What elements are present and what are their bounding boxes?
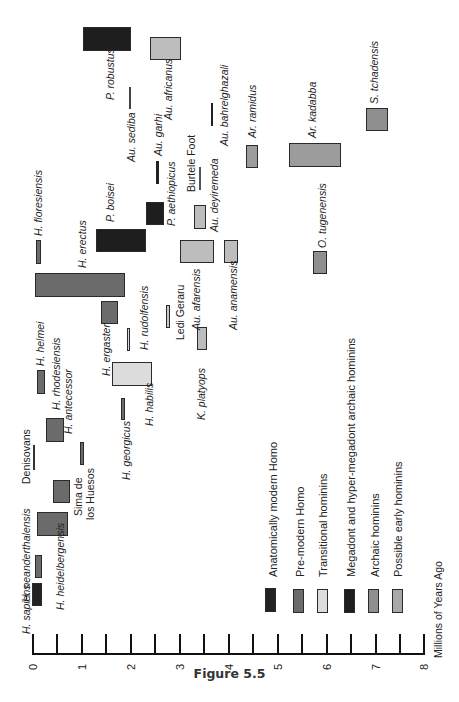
bar-sima-de-los-huesos [53, 480, 70, 503]
label-h-floresiensis: H. floresiensis [32, 170, 44, 236]
tick-3 [179, 634, 181, 655]
tick-4 [228, 634, 230, 655]
label-p-aethiopicus: P. aethiopicus [165, 161, 177, 226]
bar-burtele-foot [199, 167, 201, 190]
hominin-timeline-chart: H. sapiens H. neanderthalensis H. heidel… [0, 0, 459, 702]
bar-h-ergaster [101, 301, 118, 324]
tick-8 [423, 634, 425, 655]
label-h-erectus: H. erectus [76, 220, 88, 268]
label-h-rhodesiensis: H. rhodesiensis [50, 338, 62, 410]
figure-caption: Figure 5.5 [0, 666, 459, 681]
bar-au-deyiremeda [194, 205, 206, 229]
label-ar-ramidus: Ar. ramidus [246, 85, 258, 138]
bar-h-neanderthalensis [35, 555, 42, 578]
tick-7-5 [399, 634, 401, 655]
tick-5 [277, 634, 279, 655]
tick-3-5 [203, 634, 205, 655]
label-sima-1: Sima de [72, 477, 84, 516]
bar-denisovans [33, 445, 35, 470]
legend-swatch-anatomically-modern [265, 588, 276, 612]
label-au-anamensis: Au. anamensis [227, 261, 239, 330]
tick-1-5 [105, 634, 107, 655]
bar-h-floresiensis [36, 240, 41, 264]
label-h-rudolfensis: H. rudolfensis [138, 286, 150, 350]
label-p-boisei: P. boisei [104, 183, 116, 222]
legend-swatch-pre-modern [293, 589, 304, 613]
legend-label-transitional: Transitional hominins [317, 473, 329, 577]
label-h-georgicus: H. georgicus [120, 421, 132, 480]
tick-0-5 [56, 634, 58, 655]
bar-h-rudolfensis [127, 328, 130, 351]
legend-swatch-megadont [344, 589, 355, 613]
bar-s-tchadensis [366, 108, 388, 131]
bar-p-boisei [96, 229, 146, 252]
label-sima-2: los Huesos [84, 468, 96, 520]
legend-label-possible-early: Possible early hominins [392, 461, 404, 577]
bar-ledi-geraru [166, 305, 170, 328]
bar-ar-kadabba [289, 143, 341, 167]
legend-label-pre-modern: Pre-modern Homo [294, 487, 306, 577]
bar-au-sediba [129, 87, 131, 109]
label-au-deyiremeda: Au. deyiremeda [208, 158, 220, 232]
label-au-sediba: Au. sediba [125, 112, 137, 162]
bar-au-africanus [150, 37, 181, 60]
tick-2-5 [154, 634, 156, 655]
label-au-afarensis: Au. afarensis [190, 269, 202, 330]
bar-k-platyops [197, 327, 207, 350]
legend-swatch-archaic [368, 589, 379, 613]
label-ledi-geraru: Ledi Geraru [174, 285, 186, 340]
bar-h-erectus [35, 273, 125, 297]
label-au-garhi: Au. garhi [152, 114, 164, 156]
label-k-platyops: K. platyops [195, 368, 207, 420]
label-denisovans: Denisovans [20, 429, 32, 484]
bar-h-georgicus [121, 398, 125, 420]
tick-5-5 [301, 634, 303, 655]
bar-h-sapiens [32, 583, 42, 606]
tick-6 [326, 634, 328, 655]
bar-ar-ramidus [246, 145, 258, 168]
tick-1 [81, 634, 83, 655]
tick-4-5 [252, 634, 254, 655]
tick-0 [32, 634, 34, 655]
bar-h-antecessor [80, 442, 84, 465]
bar-au-garhi [156, 161, 159, 184]
label-ar-kadabba: Ar. kadabba [306, 82, 318, 138]
legend-label-archaic: Archaic hominins [369, 493, 381, 577]
label-h-antecessor: H. antecessor [62, 369, 74, 434]
x-axis-title: Millions of Years Ago [432, 561, 444, 658]
bar-au-afarensis [180, 240, 214, 263]
label-burtele-foot: Burtele Foot [185, 135, 197, 192]
label-s-tchadensis: S. tchadensis [368, 41, 380, 104]
legend-swatch-transitional [317, 589, 328, 613]
legend-label-megadont: Megadont and hyper-megadont archaic homi… [345, 338, 357, 577]
label-o-tugenensis: O. tugenensis [316, 183, 328, 248]
bar-p-aethiopicus [146, 202, 164, 225]
bar-au-bahrelghazali [211, 103, 213, 126]
label-h-habilis: H. habilis [143, 383, 155, 426]
label-h-neanderthalensis: H. neanderthalensis [20, 509, 32, 602]
tick-7 [375, 634, 377, 655]
label-au-bahrelghazali: Au. bahrelghazali [218, 65, 230, 146]
tick-2 [130, 634, 132, 655]
label-au-africanus: Au. africanus [162, 59, 174, 120]
label-h-helmei: H. helmei [34, 322, 46, 366]
legend-label-anatomically-modern: Anatomically modern Homo [267, 442, 279, 577]
label-h-heidelbergensis: H. heidelbergensis [54, 523, 66, 610]
tick-6-5 [350, 634, 352, 655]
label-p-robustus: P. robustus [104, 48, 116, 100]
legend-swatch-possible-early [392, 589, 403, 613]
bar-h-helmei [37, 370, 45, 394]
bar-o-tugenensis [313, 251, 327, 274]
label-h-ergaster: H. ergaster [100, 324, 112, 376]
